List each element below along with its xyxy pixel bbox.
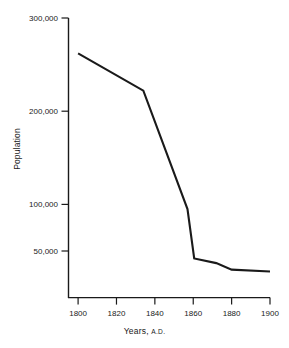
x-tick-label: 1880 [223,309,241,318]
y-tick-label: 200,000 [29,107,58,116]
population-decline-line-chart: 50,000100,000200,000300,000 180018201840… [0,0,289,348]
y-tick-label: 50,000 [34,247,59,256]
x-axis-title: Years, A.D. [0,326,289,336]
x-tick-label: 1840 [146,309,164,318]
y-tick-label: 300,000 [29,14,58,23]
x-tick-label: 1820 [108,309,126,318]
x-tick-label: 1800 [69,309,87,318]
chart-plot-area: 50,000100,000200,000300,000 180018201840… [0,0,289,348]
x-tick-label: 1900 [261,309,279,318]
x-axis-title-main: Years, [124,326,149,336]
x-axis-title-era: A.D. [151,328,165,335]
x-tick-label: 1860 [184,309,202,318]
y-tick-label: 100,000 [29,200,58,209]
chart-background [0,0,289,348]
